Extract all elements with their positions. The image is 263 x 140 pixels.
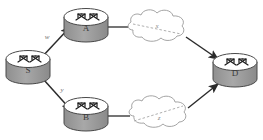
router-node-s[interactable]: S [6, 51, 50, 85]
cloud-lower: z [129, 96, 186, 127]
router-label-s: S [25, 65, 30, 75]
router-label-a: A [83, 23, 90, 33]
network-diagram: x z S [0, 0, 263, 140]
router-label-d: D [232, 68, 239, 78]
router-node-a[interactable]: A [64, 9, 108, 43]
cloud-lower-label: z [157, 114, 161, 122]
edge-cloud-lower-to-d [188, 84, 218, 108]
edge-label-y: y [59, 86, 64, 94]
router-node-d[interactable]: D [213, 54, 257, 88]
router-label-b: B [83, 112, 89, 122]
cloud-upper: x [128, 10, 184, 41]
edge-cloud-upper-to-d [186, 37, 218, 59]
router-node-b[interactable]: B [64, 98, 108, 132]
edge-label-w: w [45, 33, 50, 41]
